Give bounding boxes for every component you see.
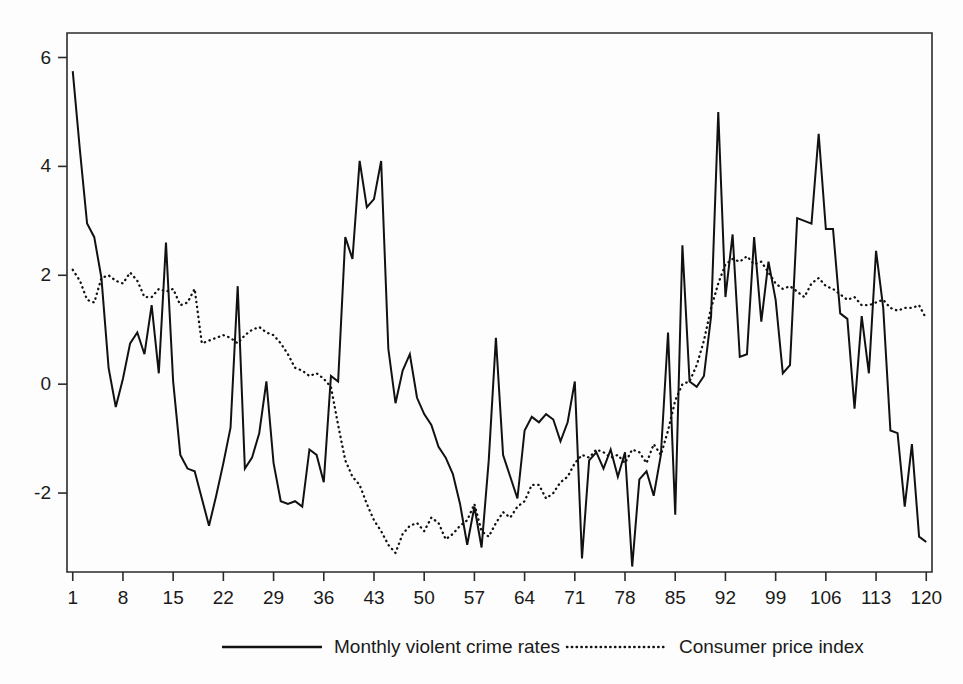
chart-legend: Monthly violent crime ratesConsumer pric… (222, 636, 864, 657)
legend-label-2: Consumer price index (679, 636, 864, 657)
chart-container: -20246 181522293643505764717885929910611… (0, 0, 963, 684)
x-tick-label: 78 (614, 587, 635, 608)
x-tick-label: 113 (861, 587, 891, 608)
x-tick-label: 64 (514, 587, 536, 608)
y-tick-label: 6 (40, 47, 51, 68)
x-tick-label: 57 (464, 587, 485, 608)
x-tick-label: 99 (765, 587, 786, 608)
x-tick-label: 92 (715, 587, 736, 608)
x-tick-label: 50 (414, 587, 435, 608)
y-tick-label: 2 (40, 264, 51, 285)
y-tick-label: 4 (40, 155, 51, 176)
x-tick-label: 22 (213, 587, 234, 608)
x-tick-label: 71 (564, 587, 585, 608)
line-chart: -20246 181522293643505764717885929910611… (0, 0, 963, 684)
x-tick-label: 106 (810, 587, 842, 608)
x-tick-label: 1 (67, 587, 78, 608)
x-tick-label: 120 (910, 587, 942, 608)
x-tick-label: 8 (118, 587, 129, 608)
series-line-1 (73, 71, 927, 566)
legend-label-1: Monthly violent crime rates (334, 636, 560, 657)
x-tick-label: 43 (363, 587, 384, 608)
x-tick-label: 36 (313, 587, 334, 608)
y-tick-label: 0 (40, 373, 51, 394)
x-tick-label: 85 (665, 587, 686, 608)
series-layer (73, 71, 927, 566)
y-axis: -20246 (34, 47, 67, 504)
x-tick-label: 29 (263, 587, 284, 608)
x-tick-label: 15 (163, 587, 184, 608)
x-axis: 1815222936435057647178859299106113120 (67, 572, 942, 608)
y-tick-label: -2 (34, 482, 51, 503)
